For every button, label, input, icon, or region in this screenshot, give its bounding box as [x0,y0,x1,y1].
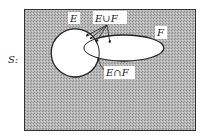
set-f-label: F [156,27,165,38]
universe-label: S: [8,54,18,65]
venn-diagram: E E∪F F E∩F S: [0,0,202,139]
union-label: E∪F [94,13,119,24]
intersection-label: E∩F [105,67,130,78]
set-e-label: E [69,13,78,24]
